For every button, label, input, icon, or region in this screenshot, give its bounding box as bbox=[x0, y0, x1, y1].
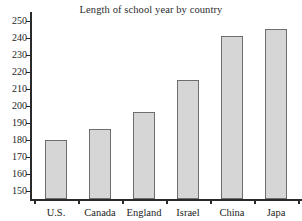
bar-chart: Length of school year by country 1501601… bbox=[0, 0, 302, 221]
y-tick-label: 240 bbox=[12, 33, 27, 43]
y-axis-line bbox=[30, 12, 32, 200]
y-tick-label: 220 bbox=[12, 67, 27, 77]
x-tick-mark bbox=[298, 199, 300, 204]
y-tick-label: 180 bbox=[12, 135, 27, 145]
x-axis-label-0: U.S. bbox=[34, 208, 78, 219]
x-tick-mark bbox=[166, 199, 168, 204]
bar-canada bbox=[89, 129, 111, 199]
x-tick-mark bbox=[122, 199, 124, 204]
y-tick-label: 230 bbox=[12, 50, 27, 60]
y-tick-label: 200 bbox=[12, 101, 27, 111]
y-tick-label: 150 bbox=[12, 186, 27, 196]
y-tick-label: 250 bbox=[12, 16, 27, 26]
x-tick-mark bbox=[78, 199, 80, 204]
bar-japa bbox=[265, 29, 287, 199]
x-tick-mark bbox=[254, 199, 256, 204]
x-axis-label-5: Japa bbox=[254, 208, 298, 219]
x-axis-label-4: China bbox=[210, 208, 254, 219]
y-tick-label: 190 bbox=[12, 118, 27, 128]
bar-u-s bbox=[45, 140, 67, 200]
y-tick-label: 210 bbox=[12, 84, 27, 94]
x-axis-label-2: England bbox=[122, 208, 166, 219]
bar-israel bbox=[177, 80, 199, 199]
x-tick-mark bbox=[210, 199, 212, 204]
y-tick-label: 160 bbox=[12, 169, 27, 179]
bar-england bbox=[133, 112, 155, 199]
x-tick-mark bbox=[34, 199, 36, 204]
plot-area: 150160170180190200210220230240250 U.S.Ca… bbox=[30, 12, 298, 200]
x-axis-label-1: Canada bbox=[78, 208, 122, 219]
bar-china bbox=[221, 36, 243, 199]
x-axis-label-3: Israel bbox=[166, 208, 210, 219]
y-tick-label: 170 bbox=[12, 152, 27, 162]
